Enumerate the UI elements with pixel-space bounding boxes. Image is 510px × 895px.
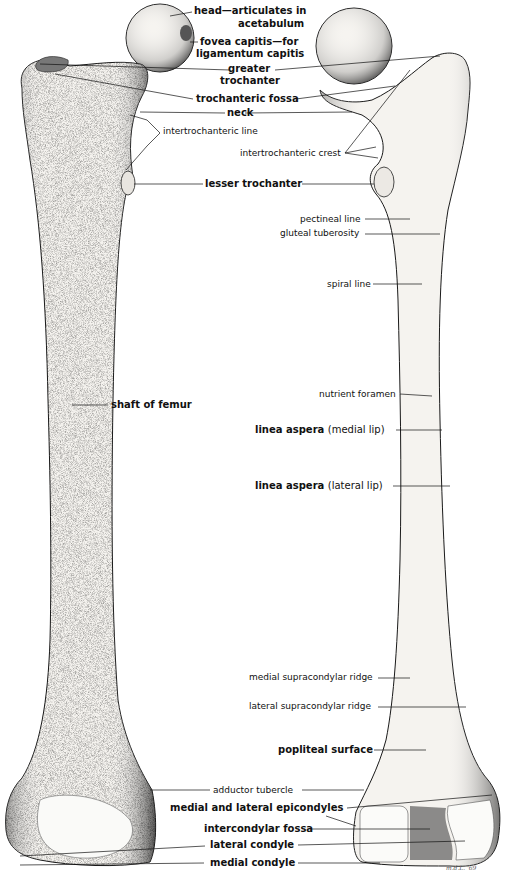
label-linea-aspera-medial: linea aspera (medial lip)	[255, 424, 385, 436]
label-fovea-desc: ligamentum capitis	[196, 48, 304, 60]
label-medial-condyle: medial condyle	[210, 857, 295, 869]
label-greater-trochanter: greater	[228, 63, 270, 75]
artist-signature: m.d.L. '69	[446, 864, 476, 871]
fovea-capitis	[180, 25, 192, 41]
label-intertrochanteric-crest: intertrochanteric crest	[240, 148, 341, 159]
label-medial-supracondylar-ridge: medial supracondylar ridge	[249, 672, 373, 683]
right-lesser-trochanter	[374, 167, 394, 197]
label-lateral-condyle: lateral condyle	[210, 839, 294, 851]
label-epicondyles: medial and lateral epicondyles	[170, 802, 343, 814]
label-adductor-tubercle: adductor tubercle	[213, 785, 293, 796]
right-medial-condyle-surface	[360, 806, 408, 862]
label-trochanteric-fossa: trochanteric fossa	[196, 93, 299, 105]
label-intertrochanteric-line: intertrochanteric line	[163, 126, 258, 137]
label-lateral-supracondylar-ridge: lateral supracondylar ridge	[249, 701, 371, 712]
label-nutrient-foramen: nutrient foramen	[319, 389, 396, 400]
left-lesser-trochanter	[121, 171, 135, 195]
label-pectineal-line: pectineal line	[300, 214, 361, 225]
label-head: head—articulates in	[194, 5, 306, 17]
label-greater-trochanter-2: trochanter	[220, 75, 280, 87]
label-popliteal-surface: popliteal surface	[278, 744, 373, 756]
label-shaft-of-femur: shaft of femur	[111, 399, 192, 411]
label-lesser-trochanter: lesser trochanter	[205, 178, 302, 190]
label-spiral-line: spiral line	[327, 279, 371, 290]
label-intercondylar-fossa: intercondylar fossa	[204, 823, 313, 835]
label-linea-aspera-lateral: linea aspera (lateral lip)	[255, 480, 383, 492]
label-gluteal-tuberosity: gluteal tuberosity	[280, 228, 359, 239]
label-head-desc: acetabulum	[238, 18, 304, 30]
label-fovea-capitis: fovea capitis—for	[200, 36, 298, 48]
label-neck: neck	[227, 107, 253, 119]
